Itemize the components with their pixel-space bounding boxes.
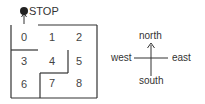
- stop-label: STOP: [29, 6, 59, 17]
- cell-2: 2: [69, 32, 89, 43]
- compass-north-label: north: [139, 31, 162, 41]
- cell-4: 4: [42, 56, 62, 67]
- cell-7: 7: [42, 78, 62, 89]
- compass-south-label: south: [139, 76, 163, 86]
- cell-0: 0: [14, 32, 34, 43]
- stop-dot-icon: [20, 7, 28, 15]
- cell-5: 5: [69, 56, 89, 67]
- cell-1: 1: [42, 32, 62, 43]
- compass-west-label: west: [111, 53, 132, 63]
- cell-3: 3: [14, 56, 34, 67]
- compass-icon: [134, 43, 168, 76]
- compass-east-label: east: [172, 53, 191, 63]
- cell-8: 8: [69, 78, 89, 89]
- cell-6: 6: [14, 79, 34, 90]
